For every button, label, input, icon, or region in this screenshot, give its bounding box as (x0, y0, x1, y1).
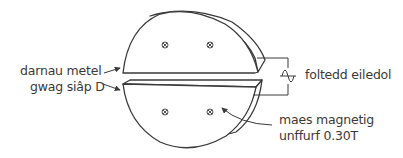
alternating-voltage-label: foltedd eiledol (305, 69, 391, 82)
magnetic-field-label-line1: maes magnetig (279, 114, 374, 127)
magnetic-field-label-line2: unffurf 0.30T (279, 130, 358, 143)
metal-pieces-arrow (104, 68, 120, 73)
lower-d-electrode (123, 80, 262, 148)
upper-d-front-face (123, 12, 258, 73)
lower-d-front-face (123, 84, 256, 148)
ac-voltage-source-icon (280, 70, 296, 82)
hollow-d-label: gwag siâp D (30, 81, 105, 94)
upper-d-electrode (123, 11, 265, 73)
hollow-d-arrow (103, 84, 120, 90)
metal-pieces-label: darnau metel (20, 65, 102, 78)
